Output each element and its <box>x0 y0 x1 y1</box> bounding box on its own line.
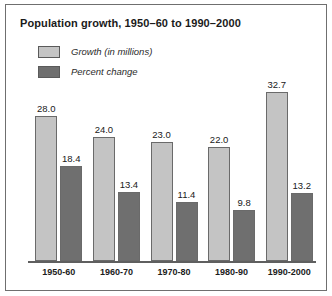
bar-growth: 28.0 <box>35 116 57 261</box>
bar-percent-change: 18.4 <box>60 166 82 261</box>
x-axis-labels: 1950-601960-701970-801980-901990-2000 <box>28 267 316 287</box>
bar-value-label: 28.0 <box>37 103 56 114</box>
bar-percent-change: 13.4 <box>118 192 140 261</box>
x-axis-tick-label: 1980-90 <box>215 267 248 277</box>
bar-growth: 22.0 <box>208 147 230 261</box>
bar-value-label: 9.8 <box>237 197 250 208</box>
bar-growth: 24.0 <box>93 137 115 261</box>
chart-frame: Population growth, 1950–60 to 1990–2000 … <box>5 4 327 291</box>
bar-group: 23.011.4 <box>151 85 198 261</box>
bar-percent-change: 11.4 <box>176 202 198 261</box>
bar-value-label: 24.0 <box>95 124 114 135</box>
plot-area: 28.018.424.013.423.011.422.09.832.713.2 <box>28 81 316 263</box>
legend-swatch-percent <box>38 66 60 78</box>
x-axis-tick-label: 1950-60 <box>42 267 75 277</box>
legend-item-growth: Growth (in millions) <box>38 43 152 60</box>
bar-percent-change: 9.8 <box>233 210 255 261</box>
bar-growth: 23.0 <box>151 142 173 261</box>
chart-legend: Growth (in millions) Percent change <box>38 43 152 83</box>
bar-value-label: 23.0 <box>152 129 171 140</box>
bar-value-label: 13.4 <box>120 179 139 190</box>
x-axis-tick-label: 1990-2000 <box>268 267 311 277</box>
x-axis-line <box>28 261 316 263</box>
bar-group: 32.713.2 <box>266 85 313 261</box>
bar-value-label: 18.4 <box>62 153 81 164</box>
legend-label-percent: Percent change <box>71 66 138 77</box>
bar-growth: 32.7 <box>266 92 288 261</box>
legend-swatch-growth <box>38 46 60 58</box>
legend-item-percent: Percent change <box>38 63 152 80</box>
x-axis-tick-label: 1960-70 <box>100 267 133 277</box>
bar-value-label: 22.0 <box>210 134 229 145</box>
legend-label-growth: Growth (in millions) <box>71 46 152 57</box>
chart-title: Population growth, 1950–60 to 1990–2000 <box>20 17 241 29</box>
population-growth-chart: Population growth, 1950–60 to 1990–2000 … <box>0 0 332 296</box>
x-axis-tick-label: 1970-80 <box>157 267 190 277</box>
bar-value-label: 11.4 <box>178 189 196 200</box>
bar-percent-change: 13.2 <box>291 193 313 261</box>
bar-group: 22.09.8 <box>208 85 255 261</box>
bar-group: 28.018.4 <box>35 85 82 261</box>
bar-value-label: 32.7 <box>267 79 286 90</box>
bar-group: 24.013.4 <box>93 85 140 261</box>
bar-value-label: 13.2 <box>292 180 311 191</box>
